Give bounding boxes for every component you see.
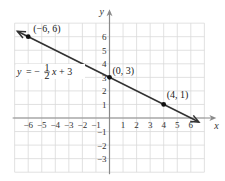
point-label: (−6, 6)	[33, 23, 60, 35]
linear-equation-graph: x y −6−5−4−3−2−1123456654321−1−2−3 (−6, …	[0, 0, 225, 181]
y-axis-label: y	[99, 6, 105, 17]
y-tick-label: 5	[102, 46, 107, 56]
x-axis-label: x	[213, 120, 219, 131]
x-tick-label: −5	[37, 120, 47, 130]
x-tick-label: −2	[78, 120, 88, 130]
equation-fraction-denominator: 2	[45, 70, 50, 81]
equation-lhs: y	[16, 66, 22, 77]
y-tick-label: −3	[97, 154, 107, 164]
x-tick-label: 3	[148, 120, 153, 130]
x-tick-label: 4	[161, 120, 166, 130]
y-tick-label: −1	[97, 127, 107, 137]
x-tick-label: 2	[134, 120, 139, 130]
point-label: (0, 3)	[113, 65, 135, 77]
x-tick-label: −4	[51, 120, 61, 130]
equation-label: y= −12x+ 3	[16, 62, 85, 81]
y-tick-label: 6	[102, 32, 107, 42]
point-label: (4, 1)	[167, 89, 189, 101]
equation-variable: x	[51, 66, 57, 77]
data-point	[26, 34, 31, 39]
y-tick-label: 4	[102, 59, 107, 69]
x-tick-label: 1	[121, 120, 126, 130]
equation-equals: = −	[26, 66, 40, 77]
y-tick-label: 2	[102, 86, 107, 96]
x-tick-label: −3	[64, 120, 74, 130]
x-tick-label: 5	[175, 120, 180, 130]
y-tick-label: 1	[102, 100, 107, 110]
equation-rest: + 3	[59, 66, 72, 77]
data-point	[161, 102, 166, 107]
y-tick-label: −2	[97, 141, 107, 151]
x-tick-label: −6	[23, 120, 33, 130]
data-point	[107, 75, 112, 80]
